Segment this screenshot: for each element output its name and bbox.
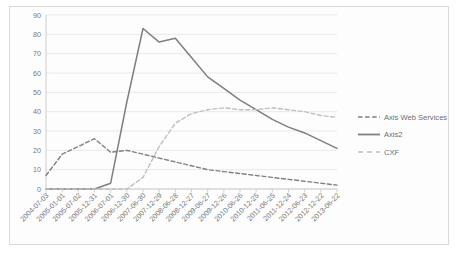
axes-group bbox=[46, 15, 337, 189]
y-axis-tick-label: 90 bbox=[33, 11, 41, 20]
series-line-cxf bbox=[46, 108, 337, 189]
series-line-axis-web-services bbox=[46, 139, 337, 185]
y-axis-tick-label: 30 bbox=[33, 127, 41, 136]
legend-label-2[interactable]: CXF bbox=[384, 148, 400, 157]
legend-label-1[interactable]: Axis2 bbox=[384, 130, 403, 139]
gridlines-group: 0102030405060708090 bbox=[33, 11, 337, 194]
legend-label-0[interactable]: Axis Web Services bbox=[384, 113, 447, 122]
y-axis-tick-label: 80 bbox=[33, 30, 41, 39]
y-axis-tick-label: 20 bbox=[33, 146, 41, 155]
y-axis-tick-label: 10 bbox=[33, 165, 41, 174]
chart-frame: 01020304050607080902004-07-032005-01-012… bbox=[9, 6, 449, 245]
series-line-axis2 bbox=[46, 29, 337, 189]
legend: Axis Web ServicesAxis2CXF bbox=[358, 113, 447, 157]
x-axis-group: 2004-07-032005-01-012005-07-022005-12-31… bbox=[18, 189, 341, 223]
y-axis-tick-label: 70 bbox=[33, 49, 41, 58]
trends-line-chart: 01020304050607080902004-07-032005-01-012… bbox=[10, 7, 450, 246]
y-axis-tick-label: 60 bbox=[33, 69, 41, 78]
chart-svg: 01020304050607080902004-07-032005-01-012… bbox=[10, 7, 450, 246]
y-axis-tick-label: 0 bbox=[37, 185, 41, 194]
series-group bbox=[46, 29, 337, 189]
y-axis-tick-label: 40 bbox=[33, 107, 41, 116]
y-axis-tick-label: 50 bbox=[33, 88, 41, 97]
